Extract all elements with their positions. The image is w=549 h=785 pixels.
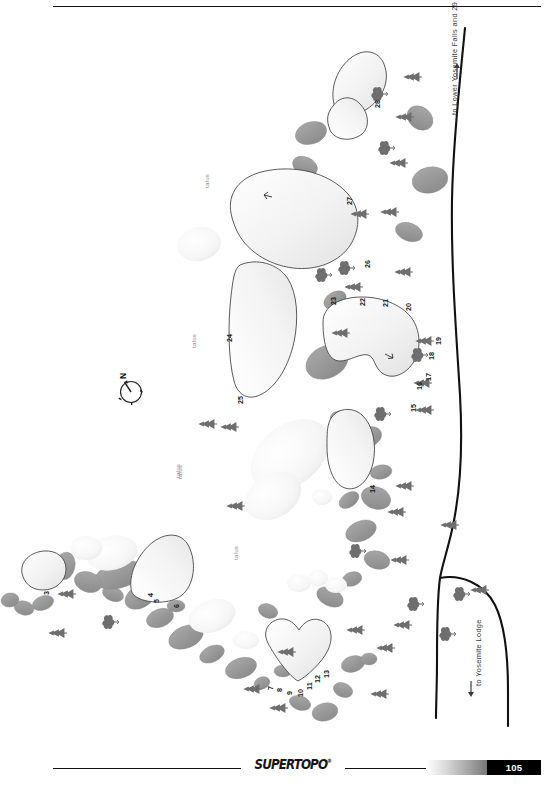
topo-map bbox=[0, 0, 549, 740]
route-number-11: 11 bbox=[305, 682, 314, 690]
route-number-22: 22 bbox=[358, 298, 367, 306]
route-number-20: 20 bbox=[404, 303, 413, 311]
talus-label-5: talus bbox=[176, 465, 183, 479]
route-number-5: 5 bbox=[152, 599, 161, 603]
supertopo-logo-text: SUPERTOPO bbox=[254, 756, 327, 772]
route-number-19: 19 bbox=[434, 337, 443, 345]
compass-rose: N bbox=[110, 366, 150, 412]
trail-path bbox=[436, 28, 508, 726]
route-number-17: 17 bbox=[424, 373, 433, 381]
route-number-12: 12 bbox=[313, 675, 322, 683]
route-number-14: 14 bbox=[368, 485, 377, 493]
route-number-8: 8 bbox=[275, 688, 284, 692]
direction-arrow-down-icon bbox=[466, 680, 476, 698]
route-number-4: 4 bbox=[146, 593, 155, 597]
talus-label-2: talus bbox=[190, 334, 197, 348]
compass-north-label: N bbox=[118, 373, 128, 379]
route-number-3: 3 bbox=[42, 591, 51, 595]
page-number: 105 bbox=[487, 760, 541, 775]
route-number-26: 26 bbox=[363, 260, 372, 268]
route-number-16: 16 bbox=[415, 382, 424, 390]
route-number-27: 27 bbox=[345, 197, 354, 205]
supertopo-logo: SUPERTOPO® bbox=[241, 753, 345, 775]
route-number-7: 7 bbox=[266, 686, 275, 690]
direction-label-lower-yosemite-falls: to Lower Yosemite Falls and 29 bbox=[450, 2, 459, 115]
route-number-28: 28 bbox=[373, 100, 382, 108]
direction-arrow-up-icon bbox=[452, 62, 462, 80]
route-number-24: 24 bbox=[225, 334, 234, 342]
route-number-25: 25 bbox=[236, 396, 245, 404]
talus-label-1: talus bbox=[203, 174, 210, 188]
route-number-10: 10 bbox=[296, 689, 305, 697]
route-number-18: 18 bbox=[427, 352, 436, 360]
direction-label-yosemite-lodge: to Yosemite Lodge bbox=[474, 619, 483, 686]
guidebook-page: N 3 4 5 6 7 8 9 10 11 12 13 14 15 16 17 … bbox=[0, 0, 549, 785]
route-number-6: 6 bbox=[172, 604, 181, 608]
talus-label-4: talus bbox=[232, 546, 239, 560]
registered-mark: ® bbox=[327, 757, 332, 764]
route-number-9: 9 bbox=[285, 691, 294, 695]
route-number-21: 21 bbox=[381, 299, 390, 307]
route-number-15: 15 bbox=[409, 404, 418, 412]
route-number-13: 13 bbox=[322, 670, 331, 678]
route-number-23: 23 bbox=[329, 297, 338, 305]
